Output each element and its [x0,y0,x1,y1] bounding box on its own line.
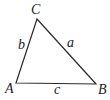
side-label-c: c [54,82,61,97]
side-label-a: a [67,35,74,50]
side-label-b: b [18,37,25,52]
triangle-abc [16,19,96,84]
vertex-label-a: A [4,81,14,96]
vertex-label-b: B [98,82,107,97]
triangle-diagram: C A B b a c [0,0,110,100]
vertex-label-c: C [31,2,41,17]
